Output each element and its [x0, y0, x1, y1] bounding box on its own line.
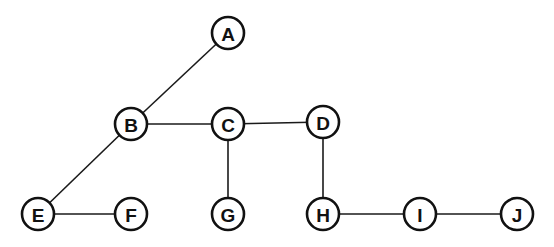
- node-h: H: [307, 198, 339, 230]
- node-label: I: [417, 205, 422, 226]
- edges-layer: [38, 33, 517, 214]
- edge-a-b: [131, 33, 228, 124]
- node-label: A: [221, 24, 235, 45]
- node-label: C: [221, 115, 235, 136]
- edge-b-e: [38, 124, 131, 214]
- node-label: F: [125, 205, 137, 226]
- node-label: D: [316, 113, 330, 134]
- node-j: J: [501, 198, 533, 230]
- node-e: E: [22, 198, 54, 230]
- node-a: A: [212, 17, 244, 49]
- node-label: J: [512, 205, 523, 226]
- graph-diagram: ABCDEFGHIJ: [0, 0, 554, 247]
- node-b: B: [115, 108, 147, 140]
- node-f: F: [115, 198, 147, 230]
- node-label: E: [32, 205, 45, 226]
- node-d: D: [307, 106, 339, 138]
- node-g: G: [212, 198, 244, 230]
- node-label: G: [221, 205, 236, 226]
- node-i: I: [404, 198, 436, 230]
- node-label: H: [316, 205, 330, 226]
- node-label: B: [124, 115, 138, 136]
- node-c: C: [212, 108, 244, 140]
